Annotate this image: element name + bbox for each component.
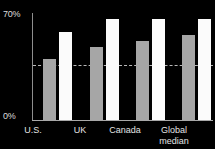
x-axis-category-label: Canada [99, 125, 151, 136]
bar-secondary [152, 19, 165, 120]
x-axis-category-label: U.S. [7, 125, 59, 136]
bar-primary [90, 47, 103, 120]
bar-primary [43, 59, 56, 120]
bar-primary [136, 41, 149, 120]
plot-area [33, 14, 213, 120]
y-axis-tick-top: 70% [3, 9, 20, 19]
bar-primary [182, 35, 195, 120]
y-axis-tick-zero: 0% [3, 111, 16, 121]
bar-chart: 70% 0% U.S.UKCanadaGlobal median [0, 0, 215, 149]
bar-secondary [59, 32, 72, 120]
x-axis-line [32, 120, 213, 121]
bar-secondary [106, 19, 119, 120]
x-axis-category-label: Global median [148, 125, 200, 147]
bar-secondary [198, 19, 211, 120]
